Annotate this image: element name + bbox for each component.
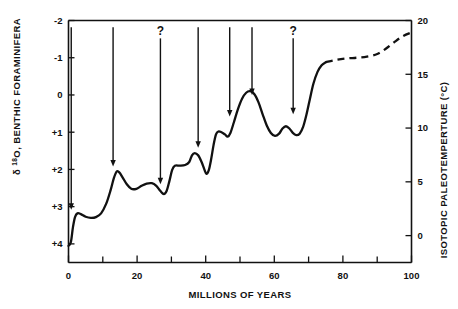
y-tick-label-right: 15 [418, 69, 429, 80]
x-tick-label: 100 [404, 270, 420, 281]
x-axis-ticks: 020406080100 [66, 256, 420, 281]
arrow-3-head [158, 178, 163, 185]
arrow-3: ? [157, 24, 164, 184]
arrow-3-label: ? [157, 24, 164, 38]
y-axis-left-title-superscript: 18 [11, 158, 18, 166]
arrow-4-head [195, 141, 200, 148]
y-tick-label-left: 0 [57, 89, 62, 100]
y-tick-label-left: +4 [52, 238, 64, 249]
arrow-5 [227, 27, 232, 116]
y-tick-label-right: 20 [418, 15, 429, 26]
x-tick-label: 20 [132, 270, 143, 281]
arrow-7-label: ? [289, 24, 296, 38]
x-tick-label: 0 [66, 270, 71, 281]
y-axis-right-ticks: 20151050 [406, 15, 429, 241]
arrow-2-head [110, 160, 115, 167]
arrow-7-head [290, 108, 295, 115]
y-tick-label-right: 10 [418, 122, 429, 133]
y-axis-right-title: ISOTOPIC PALEOTEMPERTURE (°C) [438, 82, 449, 259]
y-tick-label-left: -2 [54, 15, 62, 26]
y-axis-left-title-symbol: δ [11, 166, 22, 175]
curve-solid [69, 62, 326, 246]
curve-dashed-inferred [326, 32, 412, 62]
paleotemperature-chart: -2-10+1+2+3+4 20151050 020406080100 ?? δ… [0, 0, 458, 309]
arrow-7: ? [289, 24, 296, 114]
figure-container: -2-10+1+2+3+4 20151050 020406080100 ?? δ… [0, 0, 458, 309]
y-tick-label-left: +1 [52, 127, 64, 138]
y-tick-label-left: -1 [54, 52, 63, 63]
y-tick-label-right: 0 [418, 230, 423, 241]
arrow-1 [69, 27, 74, 209]
y-tick-label-right: 5 [418, 176, 424, 187]
y-tick-label-left: +3 [52, 201, 63, 212]
x-tick-label: 80 [338, 270, 349, 281]
y-axis-left-title-rest: O, BENTHIC FORAMINIFERA [11, 18, 22, 158]
arrow-6 [249, 27, 254, 95]
data-series-group [69, 32, 412, 245]
x-axis-title: MILLIONS OF YEARS [188, 289, 291, 300]
y-axis-left-title: δ 18O, BENTHIC FORAMINIFERA [11, 18, 22, 175]
x-tick-label: 40 [200, 270, 211, 281]
arrow-4 [195, 27, 200, 148]
y-tick-label-left: +2 [52, 164, 63, 175]
arrow-5-head [227, 110, 232, 117]
arrow-2 [110, 27, 115, 166]
x-tick-label: 60 [269, 270, 280, 281]
plot-frame [69, 21, 412, 263]
